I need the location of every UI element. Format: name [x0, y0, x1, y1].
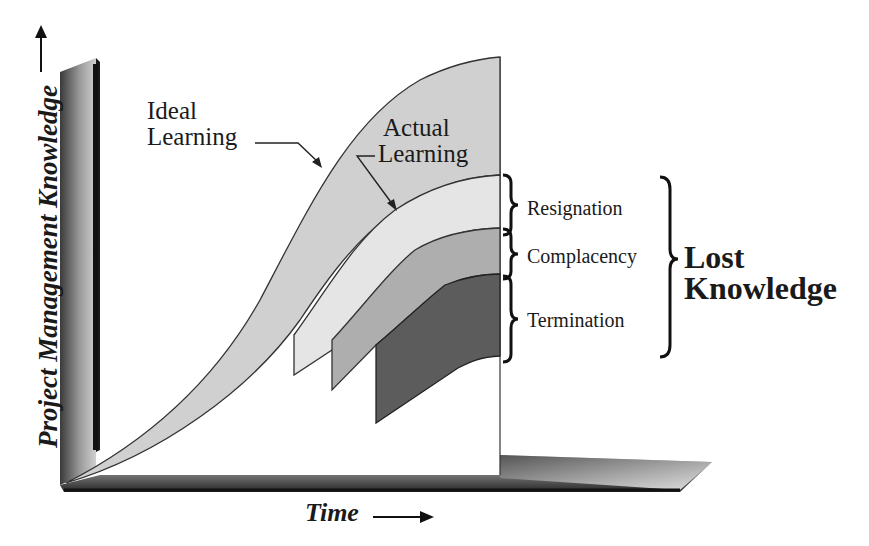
- resignation-label: Resignation: [527, 198, 623, 218]
- up-arrow: [35, 25, 47, 72]
- ideal-learning-label: Ideal Learning: [147, 98, 237, 150]
- y-axis-label: Project Management Knowledge: [35, 67, 62, 467]
- x-axis-label: Time: [305, 500, 359, 526]
- y-axis-wall: [60, 58, 100, 485]
- actual-label-line1: Actual: [378, 115, 468, 141]
- ideal-label-line2: Learning: [147, 124, 237, 150]
- big-brace-icon: [660, 177, 678, 357]
- lost-knowledge-label: Lost Knowledge: [684, 242, 837, 304]
- termination-label: Termination: [527, 310, 624, 330]
- complacency-label: Complacency: [527, 246, 637, 266]
- actual-label-line2: Learning: [378, 141, 468, 167]
- brace-icon: [503, 175, 518, 362]
- lost-line: Lost: [684, 242, 837, 273]
- actual-learning-label: Actual Learning: [378, 115, 468, 167]
- right-arrow: [373, 511, 434, 523]
- knowledge-line: Knowledge: [684, 273, 837, 304]
- ideal-label-line1: Ideal: [147, 98, 237, 124]
- knowledge-loss-diagram: Ideal Learning Actual Learning Resignati…: [0, 0, 869, 546]
